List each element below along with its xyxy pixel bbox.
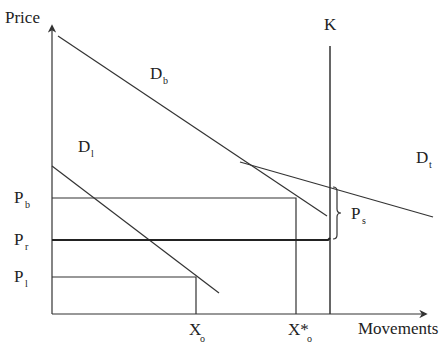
xstar-o-label: X* o <box>288 320 312 344</box>
svg-text:r: r <box>25 241 29 252</box>
k-label: K <box>324 15 337 34</box>
svg-text:D: D <box>78 137 90 156</box>
svg-text:X*: X* <box>288 320 309 339</box>
svg-text:o: o <box>307 333 312 344</box>
svg-text:P: P <box>351 204 360 223</box>
svg-text:o: o <box>200 333 205 344</box>
dl-demand-line <box>52 166 219 293</box>
svg-text:t: t <box>429 159 432 170</box>
pb-label: P b <box>14 188 30 210</box>
svg-text:l: l <box>91 148 94 159</box>
svg-text:D: D <box>416 148 428 167</box>
svg-text:s: s <box>362 215 366 226</box>
db-demand-line <box>58 36 327 216</box>
dl-label: D l <box>78 137 94 159</box>
svg-text:P: P <box>14 230 23 249</box>
price-axis-label: Price <box>5 8 40 27</box>
movements-axis-label: Movements <box>358 319 438 338</box>
pl-price-line <box>52 277 196 314</box>
svg-text:b: b <box>25 199 30 210</box>
svg-text:b: b <box>163 75 168 86</box>
pr-label: P r <box>14 230 29 252</box>
svg-text:D: D <box>150 64 162 83</box>
ps-label: P s <box>351 204 366 226</box>
pb-price-line <box>52 198 296 314</box>
ps-brace <box>333 187 341 239</box>
dt-label: D t <box>416 148 432 170</box>
pr-price-line <box>52 238 330 240</box>
svg-text:P: P <box>14 188 23 207</box>
svg-text:P: P <box>14 267 23 286</box>
db-label: D b <box>150 64 168 86</box>
economics-diagram: Price Movements K D b D l D t P b P r P … <box>0 0 447 352</box>
xo-label: X o <box>189 320 205 344</box>
svg-text:l: l <box>25 278 28 289</box>
pl-label: P l <box>14 267 28 289</box>
